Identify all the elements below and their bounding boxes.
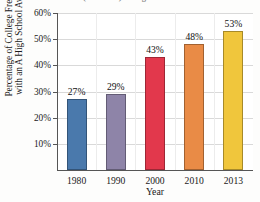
bar [145, 57, 165, 170]
bar-series: 27%198029%199043%200048%201053%2013 [57, 13, 253, 171]
bar [106, 94, 126, 170]
y-axis-label: 10% [34, 139, 51, 149]
bar-group: 27%1980 [57, 13, 96, 170]
bar-group: 48%2010 [175, 13, 214, 170]
chart-title: (A− to A+) in High School [83, 0, 177, 2]
y-axis-label: 60% [34, 8, 51, 18]
bar [67, 99, 87, 170]
bar-value-label: 29% [107, 81, 125, 92]
x-axis-label: 2013 [224, 175, 243, 186]
bar-value-label: 53% [225, 18, 243, 29]
x-axis-label: 2010 [185, 175, 204, 186]
x-axis-label: 1990 [106, 175, 125, 186]
bar [223, 31, 243, 170]
y-axis-title-line-1: Percentage of College Freshmen [4, 0, 14, 97]
y-axis-title: Percentage of College Freshmen with an A… [0, 0, 28, 116]
bar-group: 29%1990 [96, 13, 135, 170]
bar-value-label: 27% [68, 86, 86, 97]
y-axis-title-line-2: with an A High School Average [14, 0, 24, 95]
bar-chart: (A− to A+) in High School Percentage of … [0, 0, 260, 202]
x-axis-label: 1980 [67, 175, 86, 186]
y-axis-label: 20% [34, 113, 51, 123]
y-axis-label: 50% [34, 34, 51, 44]
bar-value-label: 48% [185, 31, 203, 42]
bar-group: 43%2000 [135, 13, 174, 170]
x-axis-label: 2000 [145, 175, 164, 186]
y-axis-label: 30% [34, 87, 51, 97]
y-axis-label: 40% [34, 60, 51, 70]
bar-group: 53%2013 [214, 13, 253, 170]
x-axis-title: Year [57, 186, 253, 197]
bar [184, 44, 204, 170]
bar-value-label: 43% [146, 44, 164, 55]
chart-title-strip: (A− to A+) in High School [0, 0, 260, 5]
plot-area: 10%20%30%40%50%60% 27%198029%199043%2000… [57, 13, 253, 171]
